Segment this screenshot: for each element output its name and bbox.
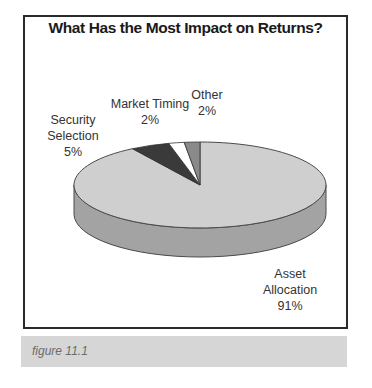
label-line: 5% (38, 144, 108, 160)
label-line: Selection (38, 128, 108, 144)
label-other: Other 2% (187, 87, 227, 119)
label-line: Other (187, 87, 227, 103)
label-line: Security (38, 112, 108, 128)
figure-caption: figure 11.1 (32, 344, 88, 358)
label-line: Allocation (252, 282, 328, 298)
label-line: 2% (105, 112, 195, 128)
pie-chart (0, 0, 372, 388)
label-security-selection: Security Selection 5% (38, 112, 108, 160)
label-line: Market Timing (105, 96, 195, 112)
label-line: 2% (187, 103, 227, 119)
label-line: 91% (252, 298, 328, 314)
label-market-timing: Market Timing 2% (105, 96, 195, 128)
label-asset-allocation: Asset Allocation 91% (252, 266, 328, 314)
figure-caption-band: figure 11.1 (21, 336, 347, 367)
label-line: Asset (252, 266, 328, 282)
